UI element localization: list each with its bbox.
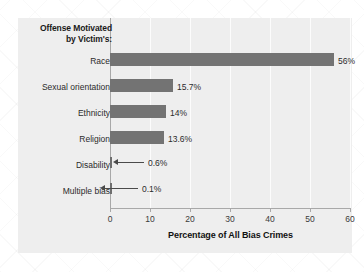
gridline-50 (310, 18, 311, 208)
x-tick-30 (230, 208, 231, 212)
x-tick-label-60: 60 (338, 214, 362, 224)
x-tick-label-10: 10 (138, 214, 162, 224)
value-label-religion: 13.6% (168, 134, 192, 144)
gridline-30 (230, 18, 231, 208)
gridline-40 (270, 18, 271, 208)
bar-race (110, 53, 334, 66)
x-tick-10 (150, 208, 151, 212)
chart-title-line-1: Offense Motivated (22, 23, 112, 34)
x-tick-60 (350, 208, 351, 212)
gridline-60 (350, 18, 351, 208)
value-label-multiple-bias: 0.1% (142, 184, 161, 194)
bar-chart-panel: Offense Motivated by Victim's: Race 56% … (18, 18, 352, 253)
chart-title-line-2: by Victim's: (22, 34, 112, 45)
x-tick-0 (110, 208, 111, 212)
category-label-disability: Disability (0, 160, 110, 170)
x-tick-40 (270, 208, 271, 212)
chart-title: Offense Motivated by Victim's: (22, 23, 112, 45)
bar-sexual-orientation (110, 79, 173, 92)
x-axis-title: Percentage of All Bias Crimes (110, 230, 351, 240)
x-tick-label-0: 0 (98, 214, 122, 224)
leader-line-disability (117, 162, 144, 163)
x-tick-20 (190, 208, 191, 212)
gridline-20 (190, 18, 191, 208)
x-tick-label-50: 50 (298, 214, 322, 224)
leader-arrowhead-multiple-bias (100, 185, 105, 191)
value-label-ethnicity: 14% (170, 108, 187, 118)
bar-religion (110, 131, 164, 144)
x-tick-50 (310, 208, 311, 212)
value-label-race: 56% (338, 56, 355, 66)
x-tick-label-20: 20 (178, 214, 202, 224)
category-label-ethnicity: Ethnicity (0, 108, 110, 118)
leader-arrowhead-disability (113, 159, 118, 165)
category-label-multiple-bias: Multiple bias (0, 186, 110, 196)
bar-ethnicity (110, 105, 166, 118)
x-tick-label-30: 30 (218, 214, 242, 224)
bar-disability (110, 157, 112, 168)
x-tick-label-40: 40 (258, 214, 282, 224)
value-label-sexual-orientation: 15.7% (177, 82, 201, 92)
category-label-religion: Religion (0, 134, 110, 144)
value-label-disability: 0.6% (148, 158, 167, 168)
category-label-sexual-orientation: Sexual orientation (0, 82, 110, 92)
category-label-race: Race (0, 56, 110, 66)
leader-line-multiple-bias (104, 188, 138, 189)
